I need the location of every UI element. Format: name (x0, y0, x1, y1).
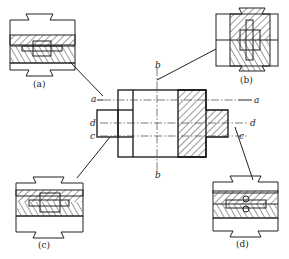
label-b-top: b (155, 60, 161, 70)
label-d-left: d (90, 118, 96, 128)
leader-c (77, 137, 110, 178)
label-a-right: a (254, 95, 259, 105)
inset-c: (c) (16, 177, 83, 250)
label-a-left: a (91, 94, 96, 104)
parting-line-diagram: a a b b d c d c (a) (b) (0, 0, 289, 259)
center-part: a a b b d c d c (90, 60, 259, 180)
caption-c: (c) (38, 240, 50, 250)
inset-a: (a) (10, 14, 75, 89)
leader-b (157, 49, 216, 80)
label-d-right: d (250, 118, 256, 128)
label-c-left: c (90, 131, 95, 141)
label-b-bottom: b (155, 170, 161, 180)
caption-d: (d) (236, 239, 249, 249)
caption-b: (b) (240, 75, 253, 85)
inset-d: (d) (213, 176, 278, 249)
left-boss (97, 110, 118, 137)
caption-a: (a) (33, 79, 45, 89)
inset-b: (b) (216, 8, 278, 85)
